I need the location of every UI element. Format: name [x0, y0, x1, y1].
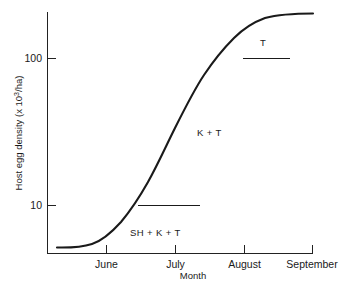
chart-figure: 100 10 June July August September Month …: [0, 0, 346, 284]
data-curve-host-egg-density: [57, 14, 313, 248]
axes-group: [47, 12, 313, 254]
host-egg-density-chart: 100 10 June July August September Month …: [0, 0, 346, 284]
annotation-label-t: T: [260, 37, 266, 48]
y-axis-title: Host egg density (x 103/ha): [13, 76, 25, 191]
x-tick-label-july: July: [166, 258, 185, 270]
x-ticks-group: [107, 245, 313, 254]
y-tick-label-10: 10: [30, 199, 42, 211]
x-tick-labels-group: June July August September: [95, 258, 338, 270]
y-axis-title-prefix: Host egg density (x 10: [13, 96, 24, 191]
y-axis-title-suffix: /ha): [13, 76, 24, 92]
x-tick-label-august: August: [228, 258, 261, 270]
y-tick-labels-group: 100 10: [24, 52, 42, 211]
y-axis-title-group: Host egg density (x 103/ha): [13, 76, 25, 191]
y-ticks-group: [48, 59, 57, 206]
annotation-labels-group: SH + K + T K + T T: [130, 37, 266, 238]
y-tick-label-100: 100: [24, 52, 42, 64]
x-tick-label-september: September: [286, 258, 338, 270]
annotation-label-sh-k-t: SH + K + T: [130, 227, 181, 238]
annotation-label-k-t: K + T: [197, 127, 222, 138]
x-tick-label-june: June: [95, 258, 118, 270]
x-axis-title: Month: [180, 270, 206, 281]
